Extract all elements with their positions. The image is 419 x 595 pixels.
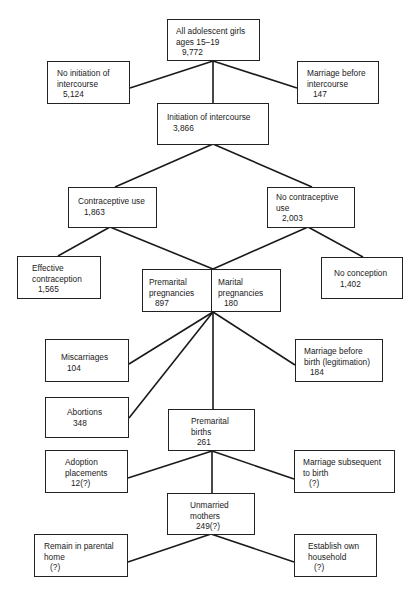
node-value: 3,866 — [167, 123, 261, 134]
node-value: (?) — [303, 478, 387, 489]
node-marriage-subsequent-to-birth: Marriage subsequent to birth (?) — [294, 450, 395, 493]
node-value: 1,402 — [334, 279, 395, 290]
node-premarital-births: Premarital births 261 — [168, 409, 255, 451]
edge-pregnancies-to-miscarriages — [129, 312, 213, 364]
node-abortions: Abortions 348 — [45, 397, 129, 438]
node-initiation-of-intercourse: Initiation of intercourse 3,866 — [157, 103, 269, 145]
node-label: Abortions — [67, 407, 121, 418]
node-label: Premarital pregnancies — [149, 277, 207, 298]
edge-contraceptive-to-pregnancies — [110, 227, 213, 269]
node-label: No initiation of intercourse — [57, 68, 122, 89]
flowchart-canvas: All adolescent girls ages 15–19 9,772 No… — [0, 0, 419, 595]
node-label: Unmarried mothers — [190, 500, 247, 521]
edge-births-to-adoption — [128, 451, 212, 478]
edge-births-to-marriage-subsequent — [212, 451, 294, 479]
node-label: Marriage before birth (legitimation) — [304, 346, 375, 367]
node-establish-own-household: Establish own household (?) — [294, 534, 377, 577]
node-marital-pregnancies: Marital pregnancies 180 — [212, 270, 280, 311]
node-all-adolescent-girls: All adolescent girls ages 15–19 9,772 — [167, 19, 260, 61]
node-label: Miscarriages — [61, 352, 121, 363]
node-contraceptive-use: Contraceptive use 1,863 — [68, 187, 157, 228]
edge-pregnancies-to-marriage-before-birth — [213, 312, 295, 365]
edge-initiation-to-no-contraceptive — [213, 144, 312, 187]
edge-all-to-no-initiation — [130, 61, 213, 88]
edge-all-to-marriage-before-intercourse — [213, 61, 297, 88]
edge-contraceptive-to-effective — [58, 227, 110, 256]
node-label: No contraceptive use — [276, 192, 347, 213]
node-value: 9,772 — [176, 47, 252, 58]
node-label: Premarital births — [191, 416, 247, 437]
node-effective-contraception: Effective contraception 1,565 — [17, 256, 101, 299]
node-pregnancies: Premarital pregnancies 897 Marital pregn… — [142, 269, 281, 312]
edge-initiation-to-contraceptive — [115, 144, 213, 187]
node-label: Marital pregnancies — [218, 277, 276, 298]
node-unmarried-mothers: Unmarried mothers 249(?) — [167, 493, 255, 535]
edge-unmarried-to-establish — [211, 534, 294, 562]
node-marriage-before-intercourse: Marriage before intercourse 147 — [297, 61, 379, 104]
node-value: 104 — [61, 363, 121, 374]
node-value: 1,565 — [32, 284, 93, 295]
node-value: 1,863 — [78, 207, 149, 218]
node-remain-in-parental-home: Remain in parental home (?) — [34, 534, 128, 577]
node-miscarriages: Miscarriages 104 — [45, 339, 129, 382]
node-value: 348 — [67, 418, 121, 429]
node-value: 249(?) — [190, 521, 247, 532]
node-no-contraceptive-use: No contraceptive use 2,003 — [267, 187, 355, 228]
node-premarital-pregnancies: Premarital pregnancies 897 — [143, 270, 212, 311]
node-value: 184 — [304, 367, 375, 378]
node-label: Marriage before intercourse — [307, 68, 371, 89]
node-label: Marriage subsequent to birth — [303, 457, 387, 478]
node-no-conception: No conception 1,402 — [321, 257, 403, 299]
node-label: Adoption placements — [65, 457, 120, 478]
node-no-initiation: No initiation of intercourse 5,124 — [47, 61, 130, 104]
edge-no-contraceptive-to-pregnancies — [213, 227, 308, 269]
edge-pregnancies-to-abortions — [129, 312, 213, 418]
node-label: All adolescent girls ages 15–19 — [176, 26, 252, 47]
node-label: Contraceptive use — [78, 196, 149, 207]
edge-no-contraceptive-to-no-conception — [308, 227, 363, 257]
node-value: 2,003 — [276, 213, 347, 224]
node-value: 180 — [218, 298, 276, 309]
node-value: 147 — [307, 89, 371, 100]
node-marriage-before-birth: Marriage before birth (legitimation) 184 — [295, 339, 383, 382]
node-label: Remain in parental home — [44, 541, 120, 562]
node-value: 12(?) — [65, 478, 120, 489]
node-label: No conception — [334, 268, 395, 279]
node-value: (?) — [308, 562, 369, 573]
node-label: Establish own household — [308, 541, 369, 562]
node-adoption-placements: Adoption placements 12(?) — [45, 450, 128, 493]
node-value: (?) — [44, 562, 120, 573]
node-label: Effective contraception — [32, 263, 93, 284]
node-value: 897 — [149, 298, 207, 309]
node-label: Initiation of intercourse — [167, 112, 261, 123]
edge-unmarried-to-remain — [128, 534, 211, 562]
node-value: 261 — [191, 437, 247, 448]
node-value: 5,124 — [57, 89, 122, 100]
